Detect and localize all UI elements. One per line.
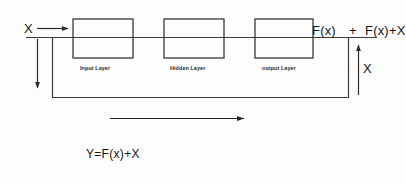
block-rect-input bbox=[73, 19, 133, 58]
block-label-hidden-layer: Hidden Layer bbox=[170, 66, 205, 71]
equation-label: Y=F(x)+X bbox=[86, 148, 140, 160]
block-rect-output bbox=[255, 19, 313, 58]
block-rect-hidden bbox=[164, 19, 224, 58]
diagram-graphics bbox=[0, 0, 406, 185]
input-label-x: X bbox=[24, 22, 33, 35]
block-label-input-layer: Input Layer bbox=[80, 66, 110, 71]
block-output-label: F(x) bbox=[312, 24, 336, 37]
plus-operator-label: + bbox=[349, 24, 357, 37]
skip-label-x: X bbox=[363, 62, 372, 75]
sum-output-label: F(x)+X bbox=[365, 24, 406, 37]
block-label-output-layer: output Layer bbox=[262, 66, 296, 71]
diagram-canvas: X F(x) + F(x)+X X Input Layer Hidden Lay… bbox=[0, 0, 406, 185]
